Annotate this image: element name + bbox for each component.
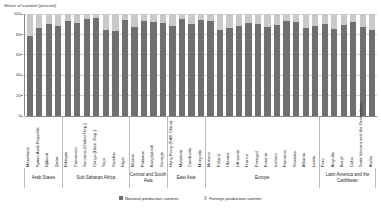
- bar-stack[interactable]: [74, 14, 80, 116]
- bar-stack[interactable]: [369, 14, 375, 116]
- bar-segment-national[interactable]: [264, 27, 270, 116]
- bar-segment-foreign[interactable]: [131, 14, 137, 27]
- bar-segment-foreign[interactable]: [283, 14, 289, 21]
- legend-item[interactable]: Foreign production content: [204, 196, 261, 201]
- bar-segment-foreign[interactable]: [322, 14, 328, 24]
- bar-stack[interactable]: [112, 14, 118, 116]
- bar-segment-national[interactable]: [169, 26, 175, 116]
- bar-segment-national[interactable]: [93, 18, 99, 116]
- bar-stack[interactable]: [245, 14, 251, 116]
- bar-stack[interactable]: [331, 14, 337, 116]
- bar-segment-foreign[interactable]: [312, 14, 318, 26]
- legend-item[interactable]: National production content: [119, 196, 178, 201]
- bar-segment-foreign[interactable]: [150, 14, 156, 22]
- bar-stack[interactable]: [103, 14, 109, 116]
- bar-segment-national[interactable]: [46, 24, 52, 116]
- bar-segment-foreign[interactable]: [112, 14, 118, 31]
- bar-segment-national[interactable]: [150, 22, 156, 116]
- bar-stack[interactable]: [188, 14, 194, 116]
- bar-segment-foreign[interactable]: [169, 14, 175, 26]
- bar-segment-national[interactable]: [226, 28, 232, 116]
- bar-segment-foreign[interactable]: [274, 14, 280, 25]
- bar-stack[interactable]: [293, 14, 299, 116]
- bar-stack[interactable]: [179, 14, 185, 116]
- bar-segment-national[interactable]: [84, 19, 90, 116]
- bar-segment-foreign[interactable]: [264, 14, 270, 27]
- bar-segment-national[interactable]: [27, 36, 33, 116]
- bar-segment-national[interactable]: [331, 29, 337, 116]
- bar-segment-national[interactable]: [103, 30, 109, 116]
- bar-stack[interactable]: [84, 14, 90, 116]
- bar-stack[interactable]: [312, 14, 318, 116]
- bar-segment-foreign[interactable]: [236, 14, 242, 26]
- bar-stack[interactable]: [169, 14, 175, 116]
- bar-segment-national[interactable]: [65, 21, 71, 116]
- bar-segment-foreign[interactable]: [46, 14, 52, 24]
- bar-segment-foreign[interactable]: [27, 14, 33, 36]
- bar-segment-national[interactable]: [198, 20, 204, 116]
- bar-stack[interactable]: [322, 14, 328, 116]
- bar-stack[interactable]: [303, 14, 309, 116]
- bar-segment-foreign[interactable]: [141, 14, 147, 21]
- bar-segment-national[interactable]: [188, 24, 194, 116]
- bar-segment-foreign[interactable]: [217, 14, 223, 30]
- bar-stack[interactable]: [274, 14, 280, 116]
- bar-segment-foreign[interactable]: [293, 14, 299, 22]
- bar-segment-national[interactable]: [131, 27, 137, 116]
- bar-stack[interactable]: [141, 14, 147, 116]
- bar-segment-foreign[interactable]: [36, 14, 42, 28]
- bar-segment-national[interactable]: [74, 23, 80, 116]
- bar-stack[interactable]: [360, 14, 366, 116]
- bar-segment-national[interactable]: [122, 20, 128, 116]
- bar-segment-foreign[interactable]: [226, 14, 232, 28]
- bar-stack[interactable]: [93, 14, 99, 116]
- bar-segment-foreign[interactable]: [74, 14, 80, 23]
- bar-segment-foreign[interactable]: [103, 14, 109, 30]
- bar-segment-national[interactable]: [160, 23, 166, 116]
- bar-stack[interactable]: [264, 14, 270, 116]
- bar-segment-national[interactable]: [236, 26, 242, 116]
- bar-segment-national[interactable]: [312, 26, 318, 116]
- bar-segment-national[interactable]: [141, 21, 147, 116]
- bar-stack[interactable]: [36, 14, 42, 116]
- bar-segment-foreign[interactable]: [160, 14, 166, 23]
- bar-segment-national[interactable]: [179, 19, 185, 116]
- bar-stack[interactable]: [198, 14, 204, 116]
- bar-segment-national[interactable]: [36, 28, 42, 116]
- bar-stack[interactable]: [46, 14, 52, 116]
- bar-segment-foreign[interactable]: [303, 14, 309, 28]
- bar-stack[interactable]: [27, 14, 33, 116]
- bar-stack[interactable]: [341, 14, 347, 116]
- bar-stack[interactable]: [226, 14, 232, 116]
- bar-segment-foreign[interactable]: [369, 14, 375, 30]
- bar-segment-foreign[interactable]: [255, 14, 261, 24]
- bar-segment-national[interactable]: [369, 30, 375, 116]
- bar-segment-national[interactable]: [255, 24, 261, 116]
- bar-segment-national[interactable]: [322, 24, 328, 116]
- bar-segment-foreign[interactable]: [360, 14, 366, 27]
- bar-segment-national[interactable]: [283, 21, 289, 116]
- bar-stack[interactable]: [160, 14, 166, 116]
- bar-stack[interactable]: [65, 14, 71, 116]
- bar-segment-national[interactable]: [112, 31, 118, 116]
- bar-stack[interactable]: [236, 14, 242, 116]
- bar-segment-national[interactable]: [350, 22, 356, 116]
- bar-stack[interactable]: [150, 14, 156, 116]
- bar-segment-foreign[interactable]: [331, 14, 337, 29]
- bar-segment-foreign[interactable]: [188, 14, 194, 24]
- bar-stack[interactable]: [207, 14, 213, 116]
- bar-segment-national[interactable]: [55, 26, 61, 116]
- bar-segment-national[interactable]: [217, 30, 223, 116]
- bar-segment-national[interactable]: [274, 25, 280, 116]
- bar-stack[interactable]: [217, 14, 223, 116]
- bar-segment-foreign[interactable]: [55, 14, 61, 26]
- bar-stack[interactable]: [55, 14, 61, 116]
- bar-segment-national[interactable]: [293, 22, 299, 116]
- bar-segment-national[interactable]: [303, 28, 309, 116]
- bar-segment-foreign[interactable]: [65, 14, 71, 21]
- bar-segment-national[interactable]: [341, 25, 347, 116]
- bar-segment-foreign[interactable]: [245, 14, 251, 23]
- bar-segment-foreign[interactable]: [207, 14, 213, 21]
- bar-segment-foreign[interactable]: [341, 14, 347, 25]
- bar-stack[interactable]: [131, 14, 137, 116]
